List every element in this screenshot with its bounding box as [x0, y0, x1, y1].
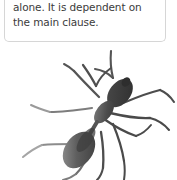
leg-middle-left	[31, 105, 92, 112]
ant-gaster	[56, 125, 102, 174]
callout-text: alone. It is dependent on the main claus…	[13, 0, 157, 30]
antenna-left	[83, 65, 111, 86]
ant-svg	[0, 40, 177, 180]
ant-illustration	[0, 40, 177, 180]
leg-trailing-right	[113, 124, 125, 180]
leg-lower-right	[97, 132, 103, 180]
leg-hind-right	[104, 119, 151, 136]
definition-callout: alone. It is dependent on the main claus…	[4, 0, 166, 42]
screenshot-root: alone. It is dependent on the main claus…	[0, 0, 177, 180]
